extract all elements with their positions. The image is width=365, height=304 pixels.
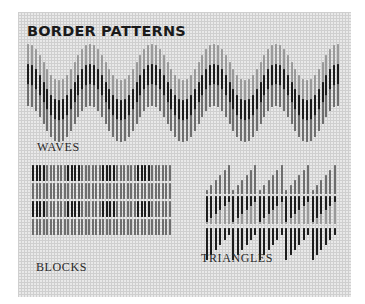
stitch: [53, 219, 55, 235]
stitch: [99, 165, 101, 181]
stitch: [290, 228, 292, 255]
stitch: [36, 201, 38, 217]
stitch: [244, 80, 246, 102]
stitch: [244, 120, 246, 142]
stitch: [259, 190, 261, 194]
stitch: [89, 84, 91, 106]
stitch: [260, 82, 262, 104]
stitch: [276, 206, 278, 224]
stitch: [165, 165, 167, 181]
stitch: [43, 183, 45, 199]
stitch: [306, 100, 308, 122]
stitch: [147, 85, 149, 107]
stitch: [285, 222, 287, 224]
stitch: [60, 201, 62, 217]
stitch: [36, 165, 38, 181]
stitch: [143, 89, 145, 111]
stitch: [178, 119, 180, 141]
stitch: [310, 119, 312, 141]
stitch: [205, 49, 207, 71]
stitch: [318, 109, 320, 131]
stitch: [256, 89, 258, 111]
stitch: [316, 218, 318, 224]
stitch: [136, 62, 138, 84]
stitch: [298, 210, 300, 224]
stitch: [92, 201, 94, 217]
stitch: [272, 175, 274, 194]
stitch: [102, 201, 104, 217]
stitch: [39, 75, 41, 97]
blocks-label: BLOCKS: [36, 260, 87, 275]
stitch: [285, 196, 287, 222]
stitch: [32, 201, 34, 217]
stitch: [74, 82, 76, 104]
stitch: [320, 214, 322, 224]
stitch: [159, 49, 161, 71]
stitch: [219, 175, 221, 194]
stitch: [306, 80, 308, 102]
stitch: [70, 69, 72, 91]
stitch: [112, 95, 114, 117]
stitch: [105, 82, 107, 104]
stitch: [134, 183, 136, 199]
stitch: [294, 109, 296, 131]
stitch: [174, 95, 176, 117]
stitch: [186, 79, 188, 101]
stitch: [85, 45, 87, 67]
stitch: [333, 65, 335, 87]
stitch: [132, 89, 134, 111]
stitch: [31, 85, 33, 107]
stitch: [240, 119, 242, 141]
stitch: [201, 55, 203, 77]
stitch: [54, 99, 56, 121]
stitch: [241, 214, 243, 224]
stitch: [147, 45, 149, 67]
stitch: [263, 218, 265, 224]
stitch: [190, 75, 192, 97]
stitch: [285, 228, 287, 260]
stitch: [123, 183, 125, 199]
stitch: [112, 75, 114, 97]
stitch: [169, 219, 171, 235]
stitch: [337, 44, 339, 66]
stitch: [64, 183, 66, 199]
stitch: [81, 89, 83, 111]
stitch: [254, 165, 256, 194]
stitch: [241, 196, 243, 214]
stitch: [151, 44, 153, 66]
stitch: [329, 69, 331, 91]
stitch: [64, 219, 66, 235]
stitch: [298, 95, 300, 117]
stitch: [120, 80, 122, 102]
stitch: [244, 100, 246, 122]
stitch: [318, 89, 320, 111]
page-title: BORDER PATTERNS: [27, 23, 186, 39]
stitch: [64, 165, 66, 181]
stitch: [268, 214, 270, 224]
stitch: [143, 49, 145, 71]
stitch: [213, 44, 215, 66]
stitch: [271, 85, 273, 107]
stitch: [217, 85, 219, 107]
stitch: [130, 165, 132, 181]
stitch: [281, 228, 283, 235]
stitch: [92, 219, 94, 235]
stitch: [97, 69, 99, 91]
stitch: [106, 201, 108, 217]
stitch: [205, 69, 207, 91]
stitch: [123, 165, 125, 181]
stitch: [74, 201, 76, 217]
stitch: [263, 55, 265, 77]
stitch: [215, 196, 217, 214]
stitch: [246, 175, 248, 194]
stitch: [275, 64, 277, 86]
stitch: [252, 75, 254, 97]
stitch: [318, 69, 320, 91]
stitch: [50, 201, 52, 217]
stitch: [46, 219, 48, 235]
stitch: [88, 219, 90, 235]
stitch: [77, 95, 79, 117]
stitch: [81, 69, 83, 91]
stitch: [58, 80, 60, 102]
stitch: [109, 201, 111, 217]
